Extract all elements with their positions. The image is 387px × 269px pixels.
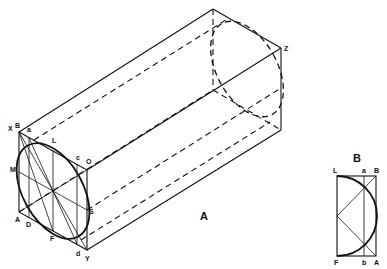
isometric-diagram: X B a L c O M S A D F d Y Z A B L a B F … [0, 0, 387, 269]
label-Y: Y [85, 255, 90, 262]
label-L: L [52, 137, 57, 144]
figure-b: B L a B F b A [333, 152, 379, 266]
back-top-edge [213, 9, 281, 48]
figure-a: X B a L c O M S A D F d Y Z A [2, 9, 299, 262]
label-F: F [334, 259, 339, 266]
label-A: A [15, 216, 20, 223]
label-B: B [374, 167, 379, 174]
hidden-center-line [87, 88, 281, 210]
label-O: O [86, 158, 92, 165]
label-B: B [15, 122, 20, 129]
caption-b: B [353, 152, 361, 164]
rectangle-LBAF [337, 176, 376, 256]
label-X: X [8, 125, 13, 132]
top-left-edge [19, 9, 213, 132]
label-S: S [89, 208, 94, 215]
diagonal-B-mid [337, 176, 376, 216]
label-d: d [76, 250, 80, 257]
semicircle [337, 176, 377, 256]
bottom-right-edge [87, 130, 281, 250]
label-a: a [362, 167, 366, 174]
diagonal-mid-A [337, 216, 376, 256]
label-a: a [27, 126, 31, 133]
label-b: b [362, 259, 366, 266]
top-right-edge [87, 48, 281, 170]
label-c: c [76, 154, 80, 161]
label-D: D [26, 221, 31, 228]
hidden-tangent-top [34, 18, 229, 140]
label-L: L [333, 167, 338, 174]
label-A: A [374, 259, 379, 266]
caption-a: A [200, 210, 208, 222]
label-F: F [50, 235, 55, 242]
label-M: M [10, 166, 16, 173]
hidden-tangent-bottom [81, 122, 270, 240]
label-Z: Z [284, 45, 289, 52]
